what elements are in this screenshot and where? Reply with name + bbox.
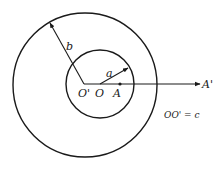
label-o: O xyxy=(95,87,104,100)
label-o-prime: O' xyxy=(78,87,90,100)
label-b: b xyxy=(66,40,73,53)
label-point-a: A xyxy=(112,87,121,100)
diagram-canvas: b a O' O A A' OO' = c xyxy=(0,0,220,169)
radius-a-arrow xyxy=(100,68,128,84)
point-a-dot xyxy=(118,82,121,85)
label-relation: OO' = c xyxy=(164,110,200,120)
label-a: a xyxy=(106,67,113,80)
outer-circle xyxy=(13,13,157,157)
label-point-a-prime: A' xyxy=(201,78,213,91)
